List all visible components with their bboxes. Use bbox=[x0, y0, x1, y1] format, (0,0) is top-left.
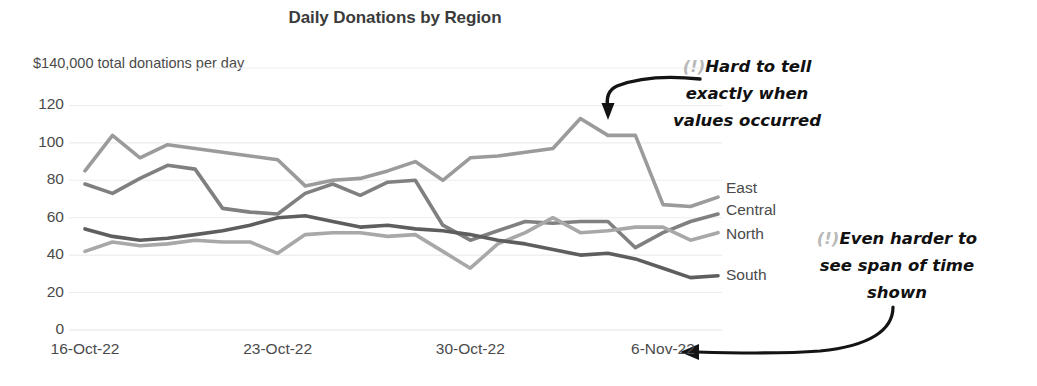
y-tick-label: 0 bbox=[12, 320, 64, 338]
x-tick-label: 23-Oct-22 bbox=[232, 340, 324, 358]
series-line-south bbox=[85, 216, 718, 278]
x-tick-label: 30-Oct-22 bbox=[424, 340, 516, 358]
annotation-span-of-time: (!)Even harder to see span of time shown bbox=[784, 198, 1010, 306]
series-label-east: East bbox=[726, 179, 757, 197]
x-tick-label: 16-Oct-22 bbox=[39, 340, 131, 358]
annotation-hard-to-tell-when: (!)Hard to tell exactly when values occu… bbox=[642, 26, 852, 134]
y-tick-label: 40 bbox=[12, 245, 64, 263]
series-label-north: North bbox=[726, 225, 764, 243]
series-label-central: Central bbox=[726, 201, 776, 219]
series-line-east bbox=[85, 119, 718, 207]
y-tick-label: 20 bbox=[12, 283, 64, 301]
chart-plot-area bbox=[0, 0, 1037, 386]
y-tick-label: 100 bbox=[12, 133, 64, 151]
chart-screenshot: Daily Donations by Region $140,000 total… bbox=[0, 0, 1037, 386]
gridlines bbox=[69, 68, 722, 330]
y-tick-label: 80 bbox=[12, 170, 64, 188]
y-tick-label: 120 bbox=[12, 95, 64, 113]
callout-arrow-timespan bbox=[680, 307, 893, 360]
annotation-warning-icon: (!) bbox=[817, 229, 840, 248]
annotation-warning-icon: (!) bbox=[683, 57, 706, 76]
series-label-south: South bbox=[726, 266, 767, 284]
x-tick-label: 6-Nov-22 bbox=[617, 340, 709, 358]
y-tick-label: 60 bbox=[12, 208, 64, 226]
annotation-span-text: Even harder to see span of time shown bbox=[820, 229, 977, 302]
